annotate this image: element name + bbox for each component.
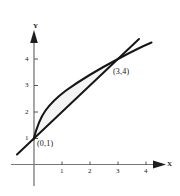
y-tick-label-1: 1 xyxy=(25,135,29,142)
function-curve xyxy=(34,43,152,140)
x-axis-label: X xyxy=(167,161,172,168)
y-axis-arrowhead xyxy=(30,30,38,43)
annotation-intersection-point: (3,4) xyxy=(113,68,129,76)
y-axis-label: Y xyxy=(33,23,38,30)
annotation-origin-point: (0,1) xyxy=(37,140,53,148)
x-tick-label-4: 4 xyxy=(144,168,148,175)
x-tick-label-1: 1 xyxy=(60,168,64,175)
x-tick-label-2: 2 xyxy=(88,168,92,175)
y-tick-label-2: 2 xyxy=(25,109,29,116)
x-tick-label-3: 3 xyxy=(116,168,120,175)
x-axis-arrowhead xyxy=(153,161,166,169)
y-tick-label-4: 4 xyxy=(25,56,29,63)
secant-line xyxy=(17,39,139,155)
y-tick-label-3: 3 xyxy=(25,82,29,89)
chart-figure: Y X 1 2 3 4 4 3 2 1 (0,1) (3,4) xyxy=(0,0,180,196)
